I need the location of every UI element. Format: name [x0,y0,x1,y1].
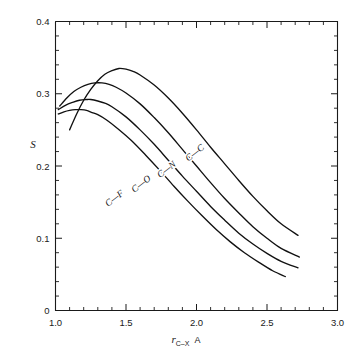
x-tick-label: 1.5 [119,317,132,328]
x-tick-label: 2.0 [190,317,203,328]
x-tick-label: 1.0 [49,317,62,328]
y-tick-label: 0.3 [36,88,49,99]
y-tick-label: 0.1 [36,233,49,244]
x-axis-title-subscript: C–X [176,340,190,347]
y-axis-title: S [30,138,36,150]
chart-figure: 1.01.52.02.53.000.10.20.30.4 C—CC—CC—NC—… [0,0,362,361]
x-axis-title-unit: A [194,335,200,345]
y-axis-title-text: S [30,138,36,150]
chart-background [0,0,362,361]
x-tick-label: 2.5 [260,317,273,328]
y-tick-label: 0 [44,305,49,316]
x-tick-label: 3.0 [331,317,344,328]
y-tick-label: 0.4 [36,16,49,27]
y-tick-label: 0.2 [36,161,49,172]
overlap-integral-line-chart: 1.01.52.02.53.000.10.20.30.4 C—CC—CC—NC—… [0,0,362,361]
